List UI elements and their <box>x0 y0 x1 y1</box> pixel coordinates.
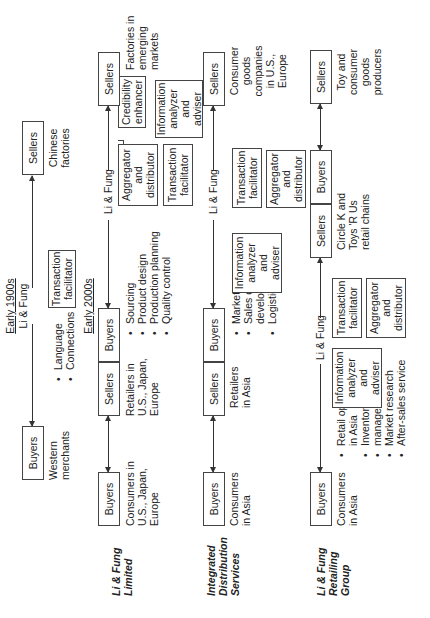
row4-sellers-link <box>320 104 321 150</box>
row1-bullets: LanguageConnections <box>52 312 76 382</box>
row3-middle-sellers-box: Sellers <box>203 362 225 416</box>
row3-transaction-box: Transactionfacilitator <box>232 148 262 208</box>
li-fung-evolution-diagram: Early 1900s Li & Fung Buyers Westernmerc… <box>0 0 430 618</box>
row2-connector-left <box>108 220 109 308</box>
row1-connector-left <box>32 324 33 426</box>
row3-intermediary: Li & Fung <box>207 169 219 214</box>
era-early-2000s: Early 2000s <box>82 256 94 356</box>
row4-middle-sellers-box: Sellers <box>310 204 332 258</box>
row3-middle-desc: Retailersin Asia <box>228 367 252 408</box>
row3-sellers-desc: Consumergoodscompaniesin U.S.,Europe <box>228 36 288 106</box>
row1-sellers-box: Sellers <box>22 121 44 175</box>
row1-buyers-box: Buyers <box>22 426 44 480</box>
row4-buyers-box: Buyers <box>310 472 332 526</box>
row2-credibility-box: Credibilityenhancer <box>118 76 146 128</box>
row3-sellers-box: Sellers <box>203 52 225 106</box>
row2-transaction-box: Transactionfacilitator <box>163 144 193 206</box>
row2-middle-sellers-box: Sellers <box>98 362 120 416</box>
row2-intermediary: Li & Fung <box>102 169 114 214</box>
row4-sellers-desc: Toy andconsumergoodsproducers <box>335 40 383 104</box>
row1-connector-right <box>32 176 33 288</box>
row3-buyers-desc: Consumersin Asia <box>228 472 252 526</box>
row2-sellers-box: Sellers <box>98 52 120 106</box>
row1-buyers-desc: Westernmerchants <box>47 431 71 480</box>
row3-connector-left <box>213 220 214 308</box>
row4-sellers-box: Sellers <box>310 50 332 104</box>
row2-information-box: Informationanalyzerandadviser <box>155 80 203 138</box>
row2-sellers-desc: Factories inemergingmarkets <box>124 16 160 70</box>
row4-middle-buyers-box: Buyers <box>310 150 332 204</box>
row1-transaction-facilitator: Transactionfacilitator <box>48 250 76 308</box>
row3-information-box: Informationanalyzerandadviser <box>232 233 282 293</box>
row4-label: Li & FungRetailingGroup <box>315 548 351 596</box>
row2-label: Li & FungLimited <box>110 548 134 596</box>
row4-intermediary: Li & Fung <box>314 315 326 360</box>
row1-intermediary: Li & Fung <box>17 256 29 356</box>
row3-label: IntegratedDistributionServices <box>205 537 241 596</box>
era-early-1900s: Early 1900s <box>4 256 16 356</box>
row3-aggregator-box: Aggregatoranddistributor <box>266 150 306 208</box>
row2-aggregator-box: Aggregatoranddistributor <box>118 144 158 206</box>
row2-middle-desc: Retailers inU.S., Japan,Europe <box>124 358 160 416</box>
row3-buyers-link <box>213 416 214 472</box>
row4-aggregator-box: Aggregatoranddistributor <box>366 278 406 338</box>
row4-middle-desc: Circle K andToys 'R Usretail chains <box>335 193 371 250</box>
row2-buyers-box: Buyers <box>98 472 120 526</box>
row4-connector-left <box>320 364 321 472</box>
row4-information-box: Informationanalyzerandadviser <box>332 348 382 408</box>
row1-sellers-desc: Chinesefactories <box>47 118 71 178</box>
row2-bullets: SourcingProduct designProduction plannin… <box>124 231 172 336</box>
row2-connector-right <box>108 106 109 170</box>
row3-connector-right <box>213 106 214 170</box>
row2-buyers-link <box>108 416 109 472</box>
row4-buyers-desc: Consumersin Asia <box>335 472 359 526</box>
row4-transaction-box: Transactionfacilitator <box>332 278 362 338</box>
row2-middle-buyers-box: Buyers <box>98 308 120 362</box>
row3-buyers-box: Buyers <box>203 472 225 526</box>
row3-middle-buyers-box: Buyers <box>203 308 225 362</box>
row2-buyers-desc: Consumers inU.S., Japan,Europe <box>124 461 160 526</box>
row4-connector-right <box>320 258 321 318</box>
